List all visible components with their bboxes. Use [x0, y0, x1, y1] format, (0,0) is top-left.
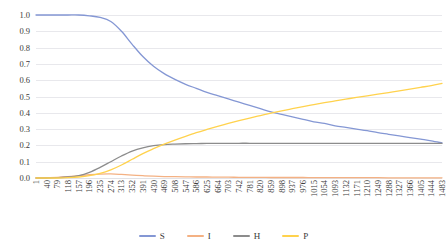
line-chart: 1.00.90.80.70.60.50.40.30.20.10.0 140791…: [0, 0, 447, 248]
x-axis-tick-label: 1171: [353, 180, 362, 197]
legend-item-h[interactable]: H: [233, 232, 261, 241]
x-axis-tick-label: 664: [214, 180, 223, 193]
legend-label: I: [208, 232, 211, 241]
y-axis-tick-label: 0.8: [19, 43, 30, 52]
series-line-s: [36, 15, 442, 143]
x-axis: 1407911815719623527431335239143046950854…: [36, 180, 442, 224]
plot-area: [36, 15, 442, 178]
legend-item-p[interactable]: P: [282, 232, 308, 241]
legend-label: S: [160, 232, 165, 241]
legend-item-s[interactable]: S: [139, 232, 165, 241]
series-paths: [36, 15, 442, 178]
legend-item-i[interactable]: I: [187, 232, 211, 241]
x-axis-tick-label: 1015: [310, 180, 319, 197]
x-axis-tick-label: 118: [64, 180, 73, 192]
y-axis-tick-label: 0.7: [19, 60, 30, 69]
legend-swatch-icon: [139, 235, 156, 237]
y-axis-tick-label: 1.0: [19, 11, 30, 20]
x-axis-tick-label: 937: [288, 180, 297, 193]
legend-label: P: [303, 232, 308, 241]
x-axis-tick-label: 1093: [331, 180, 340, 197]
x-axis-tick-label: 235: [96, 180, 105, 193]
y-axis-tick-label: 0.9: [19, 27, 30, 36]
legend-swatch-icon: [233, 235, 250, 237]
y-axis-tick-label: 0.3: [19, 125, 30, 134]
x-axis-tick-label: 586: [192, 180, 201, 193]
x-axis-tick-label: 703: [224, 180, 233, 193]
x-axis-tick-label: 1483: [438, 180, 447, 197]
y-axis-tick-label: 0.1: [19, 157, 30, 166]
y-axis-tick-label: 0.0: [19, 174, 30, 183]
x-axis-tick-label: 352: [128, 180, 137, 193]
legend-label: H: [254, 232, 261, 241]
x-axis-tick-label: 1288: [385, 180, 394, 197]
x-axis-tick-label: 1444: [427, 180, 436, 197]
x-axis-tick-label: 274: [107, 180, 116, 193]
y-axis-tick-label: 0.2: [19, 141, 30, 150]
x-axis-tick-label: 898: [278, 180, 287, 193]
y-axis-tick-label: 0.5: [19, 92, 30, 101]
x-axis-tick-label: 1405: [417, 180, 426, 197]
x-axis-tick-label: 430: [150, 180, 159, 193]
x-axis-tick-label: 40: [43, 180, 52, 189]
series-line-p: [36, 83, 442, 178]
series-line-h: [36, 143, 442, 178]
y-axis-tick-label: 0.4: [19, 109, 30, 118]
x-axis-tick-label: 1054: [320, 180, 329, 197]
x-axis-tick-label: 196: [85, 180, 94, 193]
x-axis-tick-label: 1366: [406, 180, 415, 197]
x-axis-tick-label: 625: [203, 180, 212, 193]
x-axis-tick-label: 157: [75, 180, 84, 193]
x-axis-tick-label: 742: [235, 180, 244, 193]
x-axis-tick-label: 1327: [395, 180, 404, 197]
x-axis-tick-label: 79: [53, 180, 62, 189]
x-axis-tick-label: 976: [299, 180, 308, 193]
y-axis: 1.00.90.80.70.60.50.40.30.20.10.0: [0, 0, 34, 190]
x-axis-tick-label: 1249: [374, 180, 383, 197]
x-axis-tick-label: 781: [246, 180, 255, 193]
legend-swatch-icon: [187, 235, 204, 237]
chart-legend: SIHP: [0, 228, 447, 244]
x-axis-tick-label: 547: [182, 180, 191, 193]
x-axis-tick-label: 469: [160, 180, 169, 193]
x-axis-tick-label: 820: [256, 180, 265, 193]
x-axis-tick-label: 1132: [342, 180, 351, 197]
x-axis-tick-label: 1210: [363, 180, 372, 197]
x-axis-tick-label: 313: [117, 180, 126, 193]
y-axis-tick-label: 0.6: [19, 76, 30, 85]
x-axis-tick-label: 1: [32, 180, 41, 184]
legend-swatch-icon: [282, 235, 299, 237]
x-axis-tick-label: 391: [139, 180, 148, 193]
x-axis-tick-label: 508: [171, 180, 180, 193]
x-axis-tick-label: 859: [267, 180, 276, 193]
